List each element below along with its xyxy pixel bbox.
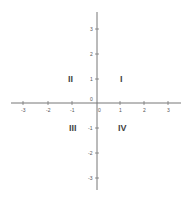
- x-tick-label: -2: [46, 107, 51, 113]
- quadrant-label-ii: II: [68, 74, 73, 84]
- x-tick-label: -3: [21, 107, 26, 113]
- y-tick-label: 1: [90, 76, 93, 82]
- y-tick-label: 3: [90, 26, 93, 32]
- y-tick-label: -3: [88, 175, 93, 181]
- y-tick-label: -2: [88, 150, 93, 156]
- x-tick-label: -1: [70, 107, 75, 113]
- origin-label: 0: [90, 96, 93, 102]
- coordinate-plane: -3 -2 -1 0 1 2 3 0 3 2 1 -1 -2 -3 II I I…: [0, 0, 189, 205]
- x-tick-label: 1: [119, 107, 122, 113]
- quadrant-label-iv: IV: [118, 123, 127, 133]
- x-tick-label: 0: [98, 107, 101, 113]
- y-tick-label: 2: [90, 51, 93, 57]
- x-tick-label: 3: [167, 107, 170, 113]
- y-tick-label: -1: [88, 125, 93, 131]
- quadrant-label-i: I: [120, 74, 123, 84]
- quadrant-label-iii: III: [69, 123, 77, 133]
- x-tick-label: 2: [143, 107, 146, 113]
